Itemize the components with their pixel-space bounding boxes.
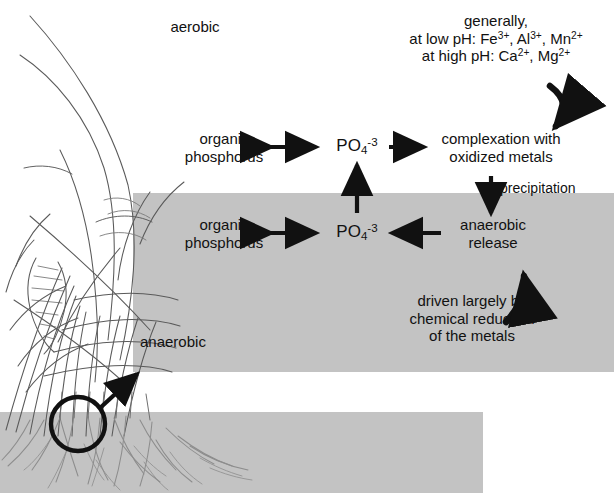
node-organic-phosphorus-anaerobic: organic phosphorus	[172, 216, 276, 251]
magnifier-circle-icon	[51, 397, 105, 451]
organic-p-aerobic-line2: phosphorus	[172, 148, 276, 166]
reduction-note: driven largely by chemical reduction of …	[374, 292, 570, 345]
node-organic-phosphorus-aerobic: organic phosphorus	[172, 130, 276, 165]
metals-note-line1: generally,	[378, 12, 614, 30]
metals-note-line3: at high pH: Ca2+, Mg2+	[378, 47, 614, 65]
figure-canvas: aerobic anaerobic generally, at low pH: …	[0, 0, 614, 493]
metals-note-line2: at low pH: Fe3+, Al3+, Mn2+	[378, 30, 614, 48]
organic-p-anaerobic-line2: phosphorus	[172, 234, 276, 252]
callout-arrow-icon	[100, 374, 137, 408]
curved-arrow-down-icon	[550, 86, 564, 126]
complexation-line2: oxidized metals	[420, 148, 582, 166]
node-complexation-oxidized-metals: complexation with oxidized metals	[420, 130, 582, 165]
anaerobic-release-line1: anaerobic	[438, 216, 548, 234]
node-anaerobic-release: anaerobic release	[438, 216, 548, 251]
organic-p-aerobic-line1: organic	[172, 130, 276, 148]
reduction-note-line1: driven largely by	[374, 292, 570, 310]
node-phosphate-anaerobic: PO4-3	[320, 222, 394, 244]
organic-p-anaerobic-line1: organic	[172, 216, 276, 234]
aerobic-zone-label: aerobic	[140, 18, 250, 36]
complexation-line1: complexation with	[420, 130, 582, 148]
precipitation-label: precipitation	[500, 180, 612, 197]
metals-note: generally, at low pH: Fe3+, Al3+, Mn2+ a…	[378, 12, 614, 65]
reduction-note-line3: of the metals	[374, 327, 570, 345]
anaerobic-zone-label: anaerobic	[140, 333, 260, 351]
reduction-note-line2: chemical reduction	[374, 310, 570, 328]
anaerobic-release-line2: release	[438, 234, 548, 252]
node-phosphate-aerobic: PO4-3	[320, 136, 394, 158]
